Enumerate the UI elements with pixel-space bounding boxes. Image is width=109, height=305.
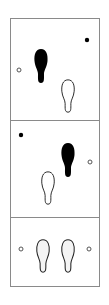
outline-footprint-icon: [62, 80, 75, 112]
open-circle-marker: [88, 160, 92, 164]
filled-dot-marker: [19, 133, 23, 137]
open-circle-marker: [17, 68, 21, 72]
panel-3: [19, 240, 91, 272]
outline-footprint-icon: [42, 172, 55, 204]
dotted-footprint-icon: [37, 240, 50, 272]
panel-2: [19, 133, 92, 204]
dotted-footprint-icon: [62, 240, 75, 272]
filled-footprint-icon: [34, 49, 47, 83]
footstep-diagram: [0, 0, 109, 305]
filled-dot-marker: [85, 38, 89, 42]
open-circle-marker: [87, 247, 91, 251]
filled-footprint-icon: [61, 143, 74, 177]
panel-1: [17, 38, 89, 112]
open-circle-marker: [19, 247, 23, 251]
panel-frame: [11, 19, 100, 287]
